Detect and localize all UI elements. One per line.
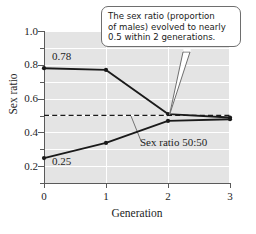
callout-box: The sex ratio (proportion of males) evol…	[101, 6, 241, 47]
callout-pointer	[170, 52, 191, 115]
callout-line-2: of males) evolved to nearly	[108, 22, 235, 33]
sex-ratio-evolution-figure: 1.0 0.8 0.6 0.4 0.2 0 1 2 3 Generation S…	[0, 0, 256, 234]
callout-line-1: The sex ratio (proportion	[108, 11, 235, 22]
callout-line-3: 0.5 within 2 generations.	[108, 32, 235, 43]
